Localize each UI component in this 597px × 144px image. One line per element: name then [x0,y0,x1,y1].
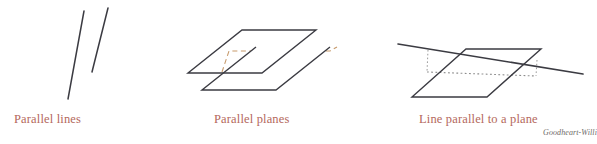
projection-dropper-right-dotted [536,60,537,76]
caption-parallel-lines: Parallel lines [14,112,81,127]
caption-line-parallel-to-a-plane: Line parallel to a plane [419,112,538,127]
parallel-line-left [68,11,84,99]
projection-dropper-left-dotted [427,50,428,72]
panel-line-parallel-to-plane [398,44,583,97]
caption-parallel-planes: Parallel planes [214,112,290,127]
panel-parallel-planes [188,30,337,90]
publisher-credit: Goodheart-Willi [543,128,597,137]
parallel-line-right [92,8,108,72]
panel-parallel-lines [68,8,108,99]
geometry-figure-sheet: Parallel lines Parallel planes Line para… [0,0,597,144]
